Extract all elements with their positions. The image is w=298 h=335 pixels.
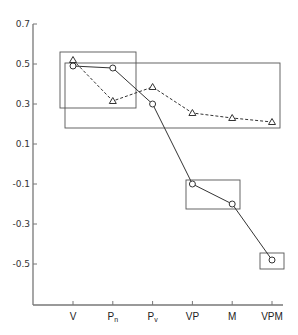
circle-marker-icon (70, 63, 76, 69)
triangle-marker-icon (149, 84, 156, 90)
circle-marker-icon (189, 181, 195, 187)
circle-marker-icon (229, 201, 235, 207)
circle-marker-icon (269, 257, 275, 263)
x-tick-label: VP (186, 311, 200, 322)
triangle-marker-icon (269, 119, 276, 125)
circle-marker-icon (110, 65, 116, 71)
dashed-triangles-line (73, 60, 272, 122)
y-tick-label: -0.5 (12, 259, 30, 269)
triangle-marker-icon (189, 110, 196, 116)
y-tick-label: -0.1 (12, 179, 30, 189)
x-tick-label: Pn (108, 311, 119, 323)
triangle-marker-icon (109, 98, 116, 104)
y-tick-label: 0.1 (16, 139, 30, 149)
data-series (70, 57, 276, 264)
x-tick-label: V (70, 311, 77, 322)
triangle-marker-icon (229, 115, 236, 121)
annotation-box (65, 63, 280, 128)
line-chart: 0.70.50.30.1-0.1-0.3-0.5VPnPvVPMVPM (0, 0, 298, 335)
y-tick-label: 0.7 (16, 19, 30, 29)
x-tick-label: M (228, 311, 236, 322)
circle-marker-icon (150, 101, 156, 107)
triangle-marker-icon (70, 57, 77, 63)
x-tick-label: Pv (148, 311, 159, 323)
axes: 0.70.50.30.1-0.1-0.3-0.5VPnPvVPMVPM (12, 19, 283, 323)
annotation-boxes (60, 52, 284, 269)
y-tick-label: 0.5 (16, 59, 30, 69)
solid-circles-line (73, 66, 272, 260)
y-tick-label: -0.3 (12, 219, 30, 229)
y-tick-label: 0.3 (16, 99, 30, 109)
x-tick-label: VPM (261, 311, 283, 322)
